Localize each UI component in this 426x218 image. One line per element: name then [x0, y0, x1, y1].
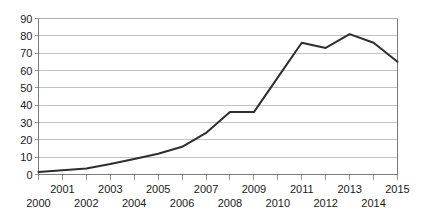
chart-canvas: 0102030405060708090 20002001200220032004…	[0, 0, 426, 218]
x-tick-label: 2003	[98, 183, 122, 195]
x-tick-label: 2014	[361, 197, 385, 209]
y-tick-label: 90	[20, 13, 32, 25]
x-tick-label: 2013	[337, 183, 361, 195]
y-tick-label: 70	[20, 47, 32, 59]
x-tick-label: 2012	[313, 197, 337, 209]
x-tick-label: 2000	[26, 197, 50, 209]
y-tick-label: 10	[20, 151, 32, 163]
line-chart: 0102030405060708090 20002001200220032004…	[0, 0, 426, 218]
x-tick-label: 2010	[266, 197, 290, 209]
x-tick-label: 2008	[218, 197, 242, 209]
x-tick-label: 2015	[385, 183, 409, 195]
y-tick-label: 50	[20, 82, 32, 94]
y-tick-label: 0	[26, 169, 32, 181]
y-axis-tick-labels: 0102030405060708090	[20, 13, 38, 181]
y-tick-label: 30	[20, 117, 32, 129]
x-axis-tick-marks	[39, 175, 398, 180]
y-tick-label: 20	[20, 134, 32, 146]
gridlines	[39, 19, 398, 158]
x-tick-label: 2009	[242, 183, 266, 195]
y-tick-label: 80	[20, 30, 32, 42]
x-tick-label: 2006	[170, 197, 194, 209]
y-tick-label: 40	[20, 99, 32, 111]
data-series-line	[39, 34, 398, 172]
x-tick-label: 2007	[194, 183, 218, 195]
x-tick-label: 2001	[50, 183, 74, 195]
x-axis-tick-labels: 2000200120022003200420052006200720082009…	[26, 183, 409, 209]
x-tick-label: 2002	[74, 197, 98, 209]
x-tick-label: 2011	[290, 183, 314, 195]
x-tick-label: 2004	[122, 197, 146, 209]
y-tick-label: 60	[20, 65, 32, 77]
x-tick-label: 2005	[146, 183, 170, 195]
